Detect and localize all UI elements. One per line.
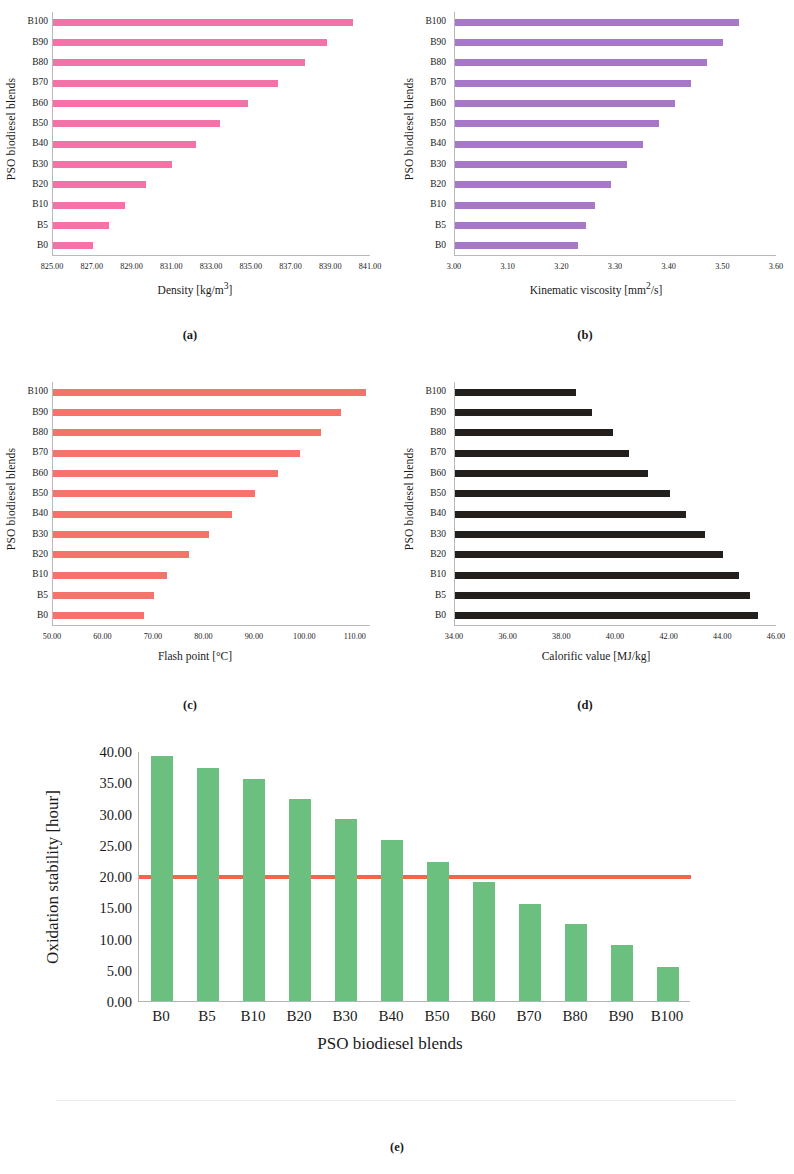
chart-d-bar	[455, 531, 705, 538]
chart-a-x-tick: 841.00	[359, 262, 382, 271]
chart-a-category-label: B40	[18, 139, 52, 149]
chart-b-bar	[455, 181, 611, 188]
chart-a-category-label: B100	[18, 17, 52, 27]
chart-c-x-tick: 90.00	[245, 632, 263, 641]
chart-c-x-tick: 60.00	[93, 632, 111, 641]
chart-c-bar	[53, 450, 300, 457]
chart-b-plot-area	[454, 12, 776, 256]
chart-b-x-tick: 3.00	[447, 262, 461, 271]
chart-d-category-label: B50	[416, 489, 450, 499]
chart-c-category-label: B50	[18, 489, 52, 499]
chart-e-bar	[473, 882, 495, 1001]
chart-panel-d: PSO biodiesel blends B100B90B80B70B60B50…	[398, 374, 794, 674]
chart-c-bar	[53, 409, 341, 416]
chart-c-bar	[53, 490, 255, 497]
chart-b-category-label: B50	[416, 119, 450, 129]
chart-e-y-tick: 20.00	[99, 869, 132, 886]
chart-a-category-label: B5	[18, 221, 52, 231]
chart-e-category-label: B0	[152, 1008, 170, 1025]
chart-d-x-tick: 46.00	[767, 632, 785, 641]
chart-d-x-axis-label: Calorific value [MJ/kg]	[398, 650, 794, 662]
chart-a-bar	[53, 242, 93, 249]
chart-e-category-label: B10	[240, 1008, 265, 1025]
chart-d-bar	[455, 389, 576, 396]
chart-b-bar	[455, 202, 595, 209]
chart-d-category-label: B10	[416, 570, 450, 580]
chart-d-bar	[455, 450, 629, 457]
chart-c-category-label: B60	[18, 469, 52, 479]
chart-b-category-label: B20	[416, 180, 450, 190]
chart-d-bar	[455, 470, 648, 477]
chart-a-category-label: B70	[18, 78, 52, 88]
chart-c-bar	[53, 429, 321, 436]
chart-d-x-tick: 40.00	[606, 632, 624, 641]
chart-c-category-label: B70	[18, 448, 52, 458]
chart-c-category-label: B100	[18, 387, 52, 397]
chart-d-category-label: B80	[416, 428, 450, 438]
chart-b-category-label: B30	[416, 160, 450, 170]
chart-a-bar	[53, 100, 248, 107]
chart-e-y-tick: 35.00	[99, 775, 132, 792]
chart-a-bar	[53, 80, 278, 87]
chart-c-bar	[53, 470, 278, 477]
chart-e-category-label: B90	[608, 1008, 633, 1025]
chart-c-x-tick: 110.00	[344, 632, 366, 641]
chart-a-bar	[53, 161, 172, 168]
chart-e-category-label: B70	[516, 1008, 541, 1025]
chart-e-y-tick: 25.00	[99, 837, 132, 854]
chart-e-category-label: B80	[562, 1008, 587, 1025]
chart-d-x-tick: 42.00	[659, 632, 677, 641]
chart-e-x-axis-label: PSO biodiesel blends	[40, 1034, 740, 1054]
chart-e-y-tick: 40.00	[99, 744, 132, 761]
chart-e-bar	[335, 819, 357, 1001]
chart-c-category-label: B80	[18, 428, 52, 438]
chart-a-x-tick: 829.00	[120, 262, 143, 271]
chart-c-bar	[53, 531, 209, 538]
chart-a-bar	[53, 39, 327, 46]
panel-caption-e: (e)	[357, 1140, 437, 1155]
chart-c-x-tick: 80.00	[194, 632, 212, 641]
chart-e-category-label: B100	[651, 1008, 684, 1025]
chart-b-category-label: B0	[416, 241, 450, 251]
chart-e-y-tick: 15.00	[99, 900, 132, 917]
chart-b-category-label: B90	[416, 38, 450, 48]
chart-e-bar	[381, 840, 403, 1001]
chart-e-category-label: B5	[198, 1008, 216, 1025]
chart-e-category-label: B20	[286, 1008, 311, 1025]
chart-b-category-label: B5	[416, 221, 450, 231]
chart-a-bar	[53, 120, 220, 127]
chart-d-category-label: B0	[416, 611, 450, 621]
chart-b-x-tick: 3.60	[769, 262, 783, 271]
chart-e-y-axis-label: Oxidation stability [hour]	[40, 752, 66, 1002]
chart-b-category-label: B10	[416, 200, 450, 210]
panel-caption-c: (c)	[150, 698, 230, 713]
chart-e-plot-area	[138, 752, 690, 1002]
chart-c-plot-area	[52, 382, 370, 626]
chart-b-bar	[455, 222, 586, 229]
chart-c-category-label: B30	[18, 530, 52, 540]
chart-a-x-axis-label: Density [kg/m3]	[0, 280, 390, 296]
chart-c-category-label: B20	[18, 550, 52, 560]
chart-b-category-label: B100	[416, 17, 450, 27]
chart-e-y-tick-labels: 0.005.0010.0015.0020.0025.0030.0035.0040…	[70, 752, 132, 1002]
chart-d-bar	[455, 511, 686, 518]
chart-c-category-label: B90	[18, 408, 52, 418]
chart-b-category-label: B60	[416, 99, 450, 109]
chart-a-category-label: B50	[18, 119, 52, 129]
chart-d-bar	[455, 409, 592, 416]
chart-d-x-tick: 36.00	[498, 632, 516, 641]
chart-e-y-tick: 10.00	[99, 931, 132, 948]
chart-a-category-label: B80	[18, 58, 52, 68]
chart-a-category-label: B10	[18, 200, 52, 210]
chart-d-bar	[455, 572, 739, 579]
chart-d-x-tick: 34.00	[445, 632, 463, 641]
chart-b-bar	[455, 39, 723, 46]
chart-a-category-label: B20	[18, 180, 52, 190]
chart-a-bar	[53, 202, 125, 209]
chart-a-category-label: B30	[18, 160, 52, 170]
chart-d-category-label: B5	[416, 591, 450, 601]
chart-e-category-label: B40	[378, 1008, 403, 1025]
chart-b-bar	[455, 141, 643, 148]
chart-d-bar	[455, 612, 758, 619]
chart-a-category-label: B0	[18, 241, 52, 251]
